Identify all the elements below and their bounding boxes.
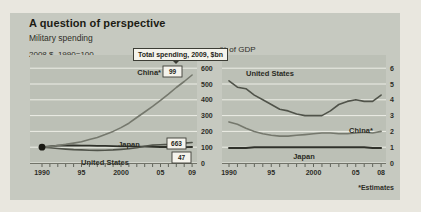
series-label-united-states: United States	[246, 69, 294, 78]
x-tick-label: 2000	[306, 169, 322, 176]
y-tick-label: 3	[390, 112, 394, 119]
value-box-text: 47	[178, 154, 186, 161]
series-label-japan: Japan	[118, 140, 140, 149]
y-tick-label: 300	[201, 112, 213, 119]
x-tick-label: 2000	[113, 169, 129, 176]
y-tick-label: 600	[201, 65, 213, 72]
x-tick-label: 95	[78, 169, 86, 176]
y-tick-label: 5	[390, 81, 394, 88]
value-box-text: 99	[169, 68, 177, 75]
y-tick-label: 4	[390, 96, 394, 103]
series-label-united-states: United States	[81, 158, 129, 167]
y-tick-label: 6	[390, 65, 394, 72]
x-tick-label: 05	[157, 169, 165, 176]
total-spending-callout: Total spending, 2009, $bn	[133, 48, 228, 61]
series-label-japan: Japan	[293, 152, 315, 161]
x-tick-label: 08	[377, 169, 385, 176]
y-tick-label: 2	[390, 128, 394, 135]
left-line-chart-military-spending-index: 010020030040050060019909520000509JapanUn…	[28, 52, 222, 200]
x-tick-label: 95	[267, 169, 275, 176]
value-box-text: 663	[171, 140, 182, 147]
chart-subtitle: Military spending	[29, 33, 93, 43]
series-line-japan	[229, 147, 381, 148]
x-tick-label: 05	[352, 169, 360, 176]
callout-text: Total spending, 2009, $bn	[138, 51, 223, 58]
y-tick-label: 400	[201, 96, 213, 103]
y-tick-label: 0	[390, 160, 394, 167]
right-line-chart-percent-of-gdp: 012345619909520000508United StatesChina*…	[222, 52, 398, 200]
y-tick-label: 0	[201, 160, 205, 167]
chart-title: A question of perspective	[29, 17, 166, 29]
base-index-dot	[39, 144, 46, 151]
estimates-footnote: *Estimates	[358, 184, 394, 191]
callout-pointer-icon	[172, 60, 180, 68]
x-tick-label: 1990	[221, 169, 237, 176]
series-label-china-: China*	[349, 126, 373, 135]
y-tick-label: 500	[201, 81, 213, 88]
x-tick-label: 1990	[34, 169, 50, 176]
chart-card: A question of perspective Military spend…	[10, 13, 400, 200]
y-tick-label: 1	[390, 144, 394, 151]
x-tick-label: 09	[188, 169, 196, 176]
y-tick-label: 200	[201, 128, 213, 135]
y-tick-label: 100	[201, 144, 213, 151]
series-label-china-: China*	[137, 68, 161, 77]
